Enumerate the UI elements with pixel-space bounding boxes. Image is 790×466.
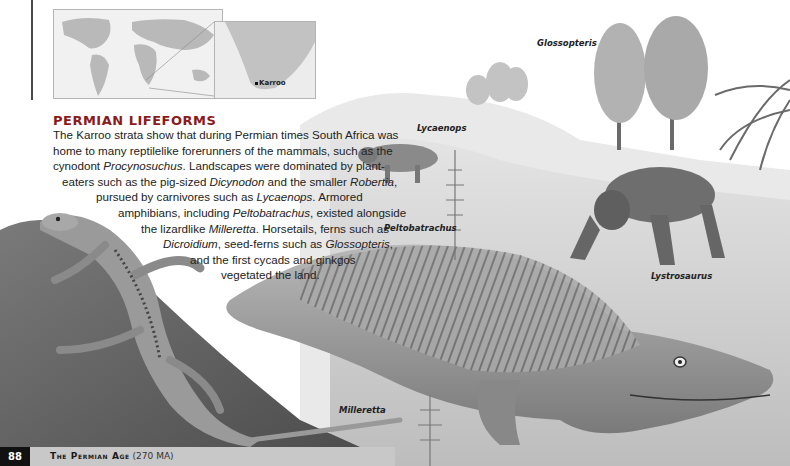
body-line-5: pursued by carnivores such as Lycaenops.…: [0, 189, 400, 205]
article-body: The Karroo strata show that during Permi…: [0, 127, 400, 283]
page-number: 88: [0, 447, 30, 466]
body-line-9: and the first cycads and ginkgos: [0, 252, 400, 268]
running-title-text: The Permian Age: [50, 451, 130, 461]
karroo-map-label: Karroo: [255, 79, 286, 87]
label-glossopteris: Glossopteris: [537, 38, 597, 48]
world-map-graphic: [54, 10, 222, 98]
body-line-1: The Karroo strata show that during Permi…: [0, 127, 400, 143]
glossopteris-trees: [594, 16, 708, 150]
body-line-2: home to many reptilelike forerunners of …: [0, 143, 400, 159]
body-line-10: vegetated the land.: [0, 267, 400, 283]
location-dot-icon: [255, 82, 258, 85]
karroo-inset-map: Karroo: [214, 21, 316, 99]
cycad-fronds: [715, 80, 790, 170]
section-heading: PERMIAN LIFEFORMS: [53, 113, 216, 128]
body-line-8: Dicroidium, seed-ferns such as Glossopte…: [0, 236, 400, 252]
small-trees: [466, 62, 528, 105]
label-milleretta: Milleretta: [339, 405, 386, 415]
running-title: The Permian Age (270 MA): [50, 447, 174, 466]
page-footer: 88 The Permian Age (270 MA): [0, 447, 790, 466]
body-line-4: eaters such as the pig-sized Dicynodon a…: [0, 174, 400, 190]
body-line-6: amphibians, including Peltobatrachus, ex…: [0, 205, 400, 221]
label-lycaenops: Lycaenops: [417, 123, 466, 133]
body-line-3: cynodont Procynosuchus. Landscapes were …: [0, 158, 400, 174]
world-map: [53, 9, 223, 99]
body-line-7: the lizardlike Milleretta. Horsetails, f…: [0, 221, 400, 237]
running-title-date: (270 MA): [133, 451, 174, 461]
label-lystrosaurus: Lystrosaurus: [651, 271, 712, 281]
page-spine-line: [31, 0, 33, 100]
book-page: Karroo PERMIAN LIFEFORMS The Karroo stra…: [0, 0, 790, 466]
label-peltobatrachus: Peltobatrachus: [384, 223, 457, 233]
